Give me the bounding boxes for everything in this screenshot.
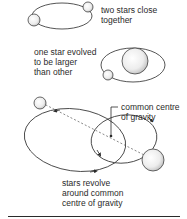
- star-right-icon: [83, 2, 93, 12]
- arrow-icon: [97, 150, 100, 155]
- panel-evolved-star: one star evolved to be larger than other: [34, 47, 165, 82]
- label-centre-of-gravity: common centre of gravity: [121, 102, 182, 122]
- binary-star-diagram: two stars close together one star evolve…: [0, 0, 187, 219]
- label-evolved: one star evolved to be larger than other: [34, 47, 99, 77]
- label-close: two stars close together: [101, 5, 160, 25]
- panel-revolve: common centre of gravity stars revolve a…: [20, 97, 182, 208]
- panel-close-stars: two stars close together: [28, 2, 160, 29]
- orbit-large: [20, 102, 130, 178]
- label-revolve: stars revolve around common centre of gr…: [62, 178, 126, 208]
- large-star-icon: [122, 48, 148, 74]
- small-star-icon: [103, 70, 113, 80]
- large-star-icon: [142, 149, 164, 171]
- small-star-icon: [34, 97, 46, 109]
- star-left-icon: [28, 14, 40, 26]
